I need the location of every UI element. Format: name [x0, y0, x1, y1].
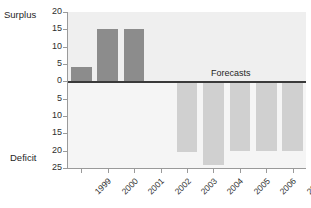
- bar-2001: [124, 29, 145, 81]
- x-tick-2005: [240, 168, 241, 173]
- x-tick-label-2006: 2006: [278, 176, 298, 196]
- x-tick-2003: [187, 168, 188, 173]
- x-tick-2000: [108, 168, 109, 173]
- y-tick-25: [63, 168, 68, 169]
- plot-area: [68, 12, 306, 168]
- x-tick-2001: [134, 168, 135, 173]
- deficit-caption: Deficit: [10, 152, 36, 163]
- bar-2000: [97, 29, 118, 81]
- forecasts-annotation: Forecasts: [211, 68, 251, 78]
- y-tick-20: [63, 12, 68, 13]
- surplus-caption: Surplus: [4, 9, 36, 20]
- x-tick-2004: [213, 168, 214, 173]
- y-tick-label-25: 25: [40, 163, 62, 172]
- y-tick-label-0: 0: [40, 76, 62, 85]
- x-tick-2002: [161, 168, 162, 173]
- y-tick-label-5: 5: [40, 94, 62, 103]
- y-tick-5: [63, 64, 68, 65]
- x-tick-label-2001: 2001: [146, 176, 166, 196]
- y-tick-label-20: 20: [40, 146, 62, 155]
- x-tick-label-2005: 2005: [251, 176, 271, 196]
- y-axis-labels: 20151050510152025: [0, 0, 62, 208]
- y-tick-label-20: 20: [40, 7, 62, 16]
- x-tick-2007: [293, 168, 294, 173]
- bar-2007: [282, 81, 303, 150]
- y-tick-0: [63, 81, 68, 82]
- y-tick-15: [63, 133, 68, 134]
- y-tick-10: [63, 116, 68, 117]
- bar-1999: [71, 67, 92, 81]
- y-axis-line: [67, 12, 68, 169]
- y-tick-label-5: 5: [40, 59, 62, 68]
- bar-2006: [256, 81, 277, 150]
- budget-balance-chart: 20151050510152025 1999200020012002200320…: [0, 0, 311, 208]
- x-tick-1999: [81, 168, 82, 173]
- y-tick-20: [63, 151, 68, 152]
- x-tick-2006: [266, 168, 267, 173]
- y-tick-5: [63, 99, 68, 100]
- x-tick-label-2000: 2000: [119, 176, 139, 196]
- y-tick-15: [63, 29, 68, 30]
- y-tick-label-15: 15: [40, 128, 62, 137]
- x-tick-label-1999: 1999: [93, 176, 113, 196]
- y-tick-label-15: 15: [40, 24, 62, 33]
- zero-baseline: [68, 81, 306, 83]
- y-tick-label-10: 10: [40, 42, 62, 51]
- y-tick-10: [63, 47, 68, 48]
- x-tick-label-2007: 2007: [304, 176, 311, 196]
- x-tick-label-2002: 2002: [172, 176, 192, 196]
- x-tick-label-2004: 2004: [225, 176, 245, 196]
- bar-2005: [230, 81, 251, 150]
- bar-2003: [177, 81, 198, 152]
- bar-2004: [203, 81, 224, 164]
- x-tick-label-2003: 2003: [199, 176, 219, 196]
- y-tick-label-10: 10: [40, 111, 62, 120]
